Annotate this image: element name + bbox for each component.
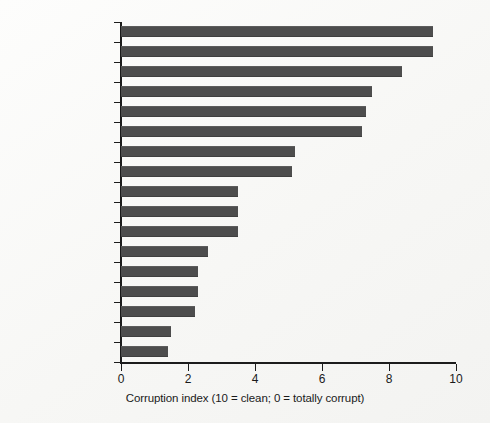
x-axis-tick-label: 0 xyxy=(118,372,125,386)
bar xyxy=(121,86,372,97)
bar xyxy=(121,26,433,37)
y-axis-tick xyxy=(114,242,120,243)
bar xyxy=(121,146,295,157)
bar-row: United States xyxy=(121,122,456,142)
bar-row: Somalia xyxy=(121,342,456,362)
bar xyxy=(121,166,292,177)
x-axis-title: Corruption index (10 = clean; 0 = totall… xyxy=(0,392,490,404)
x-axis-tick-label: 4 xyxy=(252,372,259,386)
bar xyxy=(121,106,366,117)
y-axis-tick xyxy=(114,222,120,223)
y-axis-tick xyxy=(114,142,120,143)
bar-row: Indonesia xyxy=(121,282,456,302)
bar-row: Iraq xyxy=(121,322,456,342)
bar xyxy=(121,66,402,77)
bar-row: Vietnam xyxy=(121,242,456,262)
bar-row: China xyxy=(121,202,456,222)
bar-row: South Korea xyxy=(121,162,456,182)
x-axis-tick xyxy=(255,364,256,371)
x-axis-tick xyxy=(322,364,323,371)
y-axis-tick xyxy=(114,302,120,303)
y-axis-tick xyxy=(114,322,120,323)
y-axis-tick xyxy=(114,342,120,343)
bar-row: France xyxy=(121,102,456,122)
bar-row: Brazil xyxy=(121,182,456,202)
bar xyxy=(121,286,198,297)
bar-row: United Kingdom xyxy=(121,62,456,82)
y-axis-tick xyxy=(114,122,120,123)
bar-row: Japan xyxy=(121,82,456,102)
bar xyxy=(121,46,433,57)
x-axis-tick xyxy=(188,364,189,371)
x-axis-tick-label: 2 xyxy=(185,372,192,386)
chart-figure: FinlandNew ZealandUnited KingdomJapanFra… xyxy=(0,0,490,423)
x-axis-tick xyxy=(389,364,390,371)
bar xyxy=(121,126,362,137)
bar xyxy=(121,226,238,237)
x-axis-tick-label: 8 xyxy=(386,372,393,386)
x-axis-tick xyxy=(456,364,457,371)
y-axis-tick xyxy=(114,42,120,43)
y-axis-tick xyxy=(114,262,120,263)
bar xyxy=(121,246,208,257)
y-axis-tick xyxy=(114,202,120,203)
bar-row: India xyxy=(121,222,456,242)
y-axis-tick xyxy=(114,362,120,363)
y-axis-tick xyxy=(114,182,120,183)
bar xyxy=(121,186,238,197)
bar xyxy=(121,306,195,317)
bar-row: New Zealand xyxy=(121,42,456,62)
bar xyxy=(121,266,198,277)
y-axis-tick xyxy=(114,282,120,283)
bar-row: Nigeria xyxy=(121,302,456,322)
y-axis-tick xyxy=(114,62,120,63)
x-axis-tick-label: 10 xyxy=(449,372,462,386)
x-axis-tick xyxy=(121,364,122,371)
y-axis-tick xyxy=(114,82,120,83)
y-axis-tick xyxy=(114,162,120,163)
bar-row: Italy xyxy=(121,142,456,162)
y-axis-tick xyxy=(114,22,120,23)
bar xyxy=(121,206,238,217)
bar-row: Russia xyxy=(121,262,456,282)
bar xyxy=(121,346,168,357)
plot-area: FinlandNew ZealandUnited KingdomJapanFra… xyxy=(121,22,456,363)
bar xyxy=(121,326,171,337)
y-axis-tick xyxy=(114,102,120,103)
x-axis-tick-label: 6 xyxy=(319,372,326,386)
bar-row: Finland xyxy=(121,22,456,42)
